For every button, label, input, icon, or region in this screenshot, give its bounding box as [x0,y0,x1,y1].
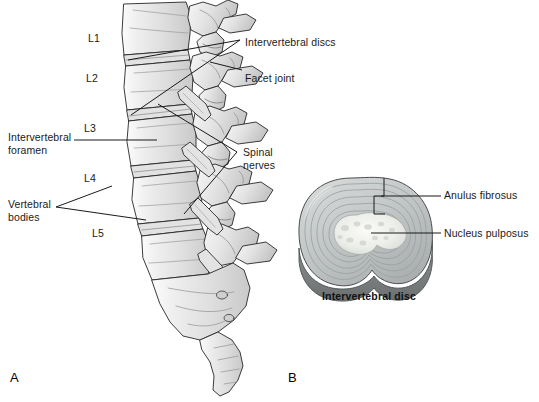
label-intervertebral-discs: Intervertebral discs [245,36,336,49]
label-anulus-fibrosus: Anulus fibrosus [444,189,517,202]
label-l1: L1 [88,32,100,45]
label-l4: L4 [84,172,96,185]
label-spinal-nerves: Spinal nerves [243,146,275,171]
lumbar-spine-illustration [122,0,277,396]
coccyx [200,332,243,396]
sacral-foramen-1 [217,291,228,299]
label-nucleus-pulposus: Nucleus pulposus [444,227,528,240]
panel-letter-b: B [288,370,297,385]
label-vertebral-bodies: Vertebral bodies [8,198,51,223]
anatomy-figure: L1 L2 L3 L4 L5 Intervertebral discs Face… [0,0,539,402]
panel-letter-a: A [10,370,19,385]
label-facet-joint: Facet joint [245,72,295,85]
nucleus-pulposus-region [334,213,406,255]
caption-intervertebral-disc: Intervertebral disc [322,290,416,302]
vertebral-body-l4 [132,171,202,224]
label-l3: L3 [84,122,96,135]
label-intervertebral-foramen: Intervertebral foramen [8,131,71,156]
label-l5: L5 [92,227,104,240]
vertebral-body-l2 [124,60,193,110]
label-l2: L2 [86,72,98,85]
sacral-foramen-2 [224,314,234,321]
